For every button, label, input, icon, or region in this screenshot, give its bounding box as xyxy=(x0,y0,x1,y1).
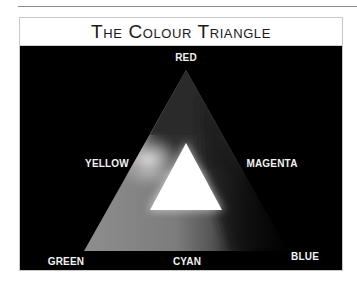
label-cyan: CYAN xyxy=(173,257,201,267)
label-green: GREEN xyxy=(48,257,85,267)
label-blue: BLUE xyxy=(291,252,319,262)
label-yellow: YELLOW xyxy=(85,159,129,169)
label-magenta: MAGENTA xyxy=(246,159,297,169)
colour-triangle-diagram xyxy=(0,0,357,288)
label-red: RED xyxy=(175,53,197,63)
